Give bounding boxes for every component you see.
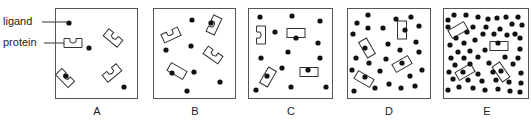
ligand-dot [279, 65, 284, 70]
ligand-dot [317, 55, 322, 60]
ligand-dot [285, 49, 290, 54]
ligand-dot [413, 39, 418, 44]
panel-d-label: D [385, 105, 393, 117]
ligand-dot [288, 84, 293, 89]
panel-d: D [348, 9, 431, 118]
ligand-dot [208, 20, 213, 25]
ligand-dot [293, 35, 298, 40]
ligand-dot [258, 55, 263, 60]
ligand-dot [408, 14, 413, 19]
ligand-dot [354, 20, 359, 25]
protein-icon [103, 29, 123, 47]
ligand-dot [257, 14, 262, 19]
ligand-dot [398, 85, 403, 90]
ligand-dot [397, 47, 402, 52]
ligand-dot [66, 20, 71, 25]
ligand-dot [351, 88, 356, 93]
protein-icon [161, 27, 181, 43]
panel-e: E [444, 9, 529, 118]
ligand-label: ligand [3, 15, 32, 27]
ligand-dot [86, 45, 91, 50]
ligand-dot [349, 67, 354, 72]
protein-icon [102, 64, 122, 82]
ligand-dot [317, 18, 322, 23]
protein-icon [206, 15, 222, 35]
ligand-dot [188, 43, 193, 48]
ligand-dot [416, 23, 421, 28]
ligand-dot [63, 73, 68, 78]
ligand-dot [386, 81, 391, 86]
ligand-dot [323, 84, 328, 89]
ligand-dot [366, 60, 371, 65]
ligand-dot [121, 84, 126, 89]
ligand-dot [399, 60, 404, 65]
ligand-binding-diagram: ligand protein A B [0, 0, 531, 121]
panel-c: C [249, 9, 333, 118]
ligand-dot [402, 27, 407, 32]
ligand-dot [253, 87, 258, 92]
ligand-dot [315, 40, 320, 45]
ligand-dot [169, 70, 174, 75]
ligand-dot [412, 83, 417, 88]
ligand-dot [380, 25, 385, 30]
ligand-dot [353, 55, 358, 60]
ligand-dot [372, 85, 377, 90]
ligand-dot [393, 16, 398, 21]
panel-a: A [55, 9, 137, 118]
panel-a-label: A [93, 105, 101, 117]
panel-e-label: E [483, 105, 490, 117]
ligand-dot [264, 73, 269, 78]
protein-label: protein [3, 36, 37, 48]
ligand-dot [416, 49, 421, 54]
legend: ligand protein [3, 15, 67, 48]
protein-icon [167, 63, 187, 80]
protein-icon [64, 39, 82, 48]
ligand-dot [184, 88, 189, 93]
ligand-dot [385, 41, 390, 46]
ligand-dot [383, 56, 388, 61]
protein-icon [203, 46, 223, 64]
ligand-dot [272, 29, 277, 34]
ligand-dot [163, 47, 168, 52]
ligand-dot [362, 74, 367, 79]
panel-c-label: C [287, 105, 295, 117]
ligand-dot [377, 68, 382, 73]
panel-b: B [154, 9, 236, 118]
ligand-dot [305, 67, 310, 72]
ligand-dot [191, 69, 196, 74]
ligand-dot [365, 12, 370, 17]
protein-icon [257, 26, 266, 44]
protein-icon [448, 22, 468, 39]
ligand-dot [289, 13, 294, 18]
ligand-dot [189, 17, 194, 22]
ligand-dot [217, 79, 222, 84]
ligand-dot [365, 25, 370, 30]
ligand-dot [419, 67, 424, 72]
ligand-dot [350, 31, 355, 36]
panel-b-box [154, 9, 236, 99]
panel-b-label: B [191, 105, 198, 117]
ligand-dot [362, 45, 367, 50]
ligand-dot [407, 73, 412, 78]
